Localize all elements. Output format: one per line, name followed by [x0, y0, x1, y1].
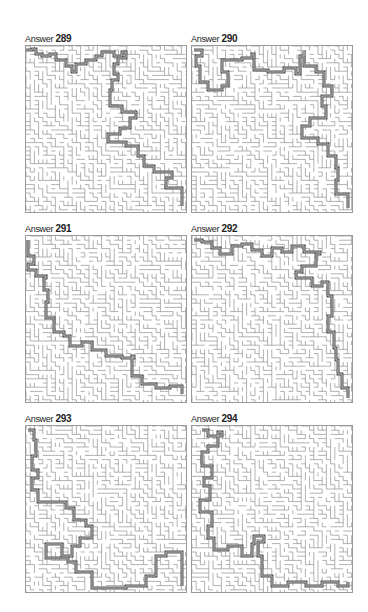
maze-solution	[191, 45, 353, 213]
label-prefix: Answer	[25, 34, 53, 44]
panel-label: Answer 294	[191, 413, 237, 424]
panel-label: Answer 289	[25, 33, 71, 44]
maze-solution	[191, 425, 353, 593]
panel-label: Answer 292	[191, 223, 237, 234]
answer-number: 294	[221, 413, 237, 424]
answer-number: 292	[221, 223, 237, 234]
label-prefix: Answer	[191, 414, 219, 424]
answer-number: 290	[221, 33, 237, 44]
panel-label: Answer 291	[25, 223, 71, 234]
panel-label: Answer 293	[25, 413, 71, 424]
answer-number: 293	[55, 413, 71, 424]
answer-number: 289	[55, 33, 71, 44]
maze-solution	[191, 235, 353, 403]
maze-solution	[25, 235, 187, 403]
maze-solution	[25, 45, 187, 213]
label-prefix: Answer	[191, 224, 219, 234]
maze-solution	[25, 425, 187, 593]
panel-label: Answer 290	[191, 33, 237, 44]
label-prefix: Answer	[25, 414, 53, 424]
label-prefix: Answer	[191, 34, 219, 44]
label-prefix: Answer	[25, 224, 53, 234]
answer-number: 291	[55, 223, 71, 234]
